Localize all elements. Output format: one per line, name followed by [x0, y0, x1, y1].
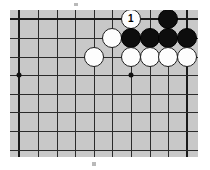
- go-diagram-page: 1: [0, 0, 210, 170]
- grid-line-horizontal: [10, 94, 198, 95]
- stone-white[interactable]: [102, 28, 122, 48]
- stone-white-numbered[interactable]: 1: [121, 10, 141, 29]
- go-board[interactable]: 1: [10, 10, 198, 157]
- grid-line-horizontal: [10, 112, 198, 113]
- grid-line-vertical: [75, 10, 76, 157]
- stone-black[interactable]: [177, 28, 197, 48]
- grid-line-vertical: [94, 10, 95, 157]
- grid-line-horizontal: [10, 131, 198, 132]
- stone-white[interactable]: [84, 47, 104, 67]
- grid-line-vertical: [38, 10, 39, 157]
- grid-line-vertical: [18, 10, 20, 157]
- stone-black[interactable]: [158, 10, 178, 29]
- grid-line-horizontal: [10, 150, 198, 151]
- stone-black[interactable]: [140, 28, 160, 48]
- stone-black[interactable]: [158, 28, 178, 48]
- grid-line-vertical: [57, 10, 58, 157]
- star-point: [17, 73, 22, 78]
- grid-line-horizontal: [10, 75, 198, 76]
- star-point: [128, 73, 133, 78]
- scan-speck: [92, 162, 96, 166]
- stone-white[interactable]: [140, 47, 160, 67]
- scan-speck: [74, 3, 78, 6]
- stone-black[interactable]: [121, 28, 141, 48]
- stone-move-number: 1: [122, 10, 140, 28]
- stone-white[interactable]: [158, 47, 178, 67]
- stone-white[interactable]: [121, 47, 141, 67]
- stone-white[interactable]: [177, 47, 197, 67]
